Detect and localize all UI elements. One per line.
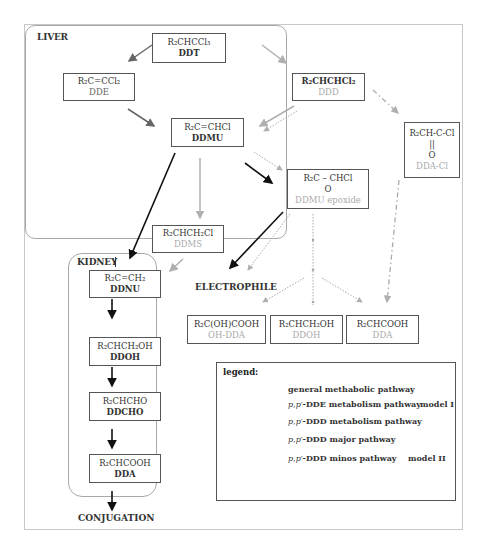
dda-formula: R₂CHCOOH xyxy=(347,319,418,330)
ddmu-epoxide-oxygen: O xyxy=(288,184,368,195)
dda-kidney-name: DDA xyxy=(90,469,160,480)
dda-cl-bond: || xyxy=(405,139,459,150)
ddnu-name: DDNU xyxy=(90,284,160,295)
ddmu-epoxide-name: DDMU epoxide xyxy=(288,195,368,206)
ddoh-kidney-formula: R₂CHCH₂OH xyxy=(90,341,160,352)
ddms-name: DDMS xyxy=(153,239,223,250)
ddd-name: DDD xyxy=(293,87,364,98)
compound-ddd: R₂CHCHCl₂ DDD xyxy=(292,73,365,101)
dda-cl-name: DDA-Cl xyxy=(405,161,459,172)
legend-title: legend: xyxy=(223,367,258,377)
ddms-formula: R₂CHCH₂Cl xyxy=(153,228,223,239)
compound-dda-kidney: R₂CHCOOH DDA xyxy=(89,454,161,483)
ddoh-kidney-name: DDOH xyxy=(90,352,160,363)
compound-ddms: R₂CHCH₂Cl DDMS xyxy=(152,225,224,253)
ddnu-formula: R₂C=CH₂ xyxy=(90,273,160,284)
legend-item-ddd: p,p′-DDD metabolism pathway xyxy=(288,416,422,426)
compound-dda: R₂CHCOOH DDA xyxy=(346,315,419,344)
model-1-label: model I xyxy=(420,399,454,409)
dda-name: DDA xyxy=(347,330,418,341)
oh-dda-name: OH-DDA xyxy=(188,330,265,341)
model-2-label: model II xyxy=(408,453,446,463)
ddd-formula: R₂CHCHCl₂ xyxy=(293,76,364,87)
ddt-name: DDT xyxy=(153,48,225,59)
compound-ddmu: R₂C=CHCl DDMU xyxy=(171,118,244,147)
compound-oh-dda: R₂C(OH)COOH OH-DDA xyxy=(187,315,266,344)
ddoh-name: DDOH xyxy=(271,330,342,341)
compound-ddt: R₂CHCCl₃ DDT xyxy=(152,33,226,63)
legend-item-dde: p,p′-DDE metabolism pathway xyxy=(288,399,421,409)
legend-item-general: general methabolic pathway xyxy=(288,384,415,394)
compound-ddmu-epoxide: R₂C – CHCl O DDMU epoxide xyxy=(287,169,369,209)
dda-cl-formula: R₂CH-C-Cl xyxy=(405,128,459,139)
legend-item-ddd-major: p,p′-DDD major pathway xyxy=(288,434,395,444)
legend-item-ddd-minor: p,p′-DDD minos pathway xyxy=(288,453,396,463)
oh-dda-formula: R₂C(OH)COOH xyxy=(188,319,265,330)
compound-ddoh: R₂CHCH₂OH DDOH xyxy=(270,315,343,344)
compound-ddoh-kidney: R₂CHCH₂OH DDOH xyxy=(89,337,161,366)
conjugation-label: CONJUGATION xyxy=(78,513,155,523)
ddoh-formula: R₂CHCH₂OH xyxy=(271,319,342,330)
ddcho-formula: R₂CHCHO xyxy=(90,396,160,407)
dde-formula: R₂C=CCl₂ xyxy=(64,76,134,87)
legend: legend: general methabolic pathway p,p′-… xyxy=(216,362,456,501)
ddmu-epoxide-formula: R₂C – CHCl xyxy=(288,173,368,184)
dda-cl-oxygen: O xyxy=(405,150,459,161)
compound-ddnu: R₂C=CH₂ DDNU xyxy=(89,270,161,298)
compound-dde: R₂C=CCl₂ DDE xyxy=(63,73,135,101)
compound-ddcho: R₂CHCHO DDCHO xyxy=(89,392,161,421)
electrophile-label: ELECTROPHILE xyxy=(195,282,277,292)
ddmu-formula: R₂C=CHCl xyxy=(172,122,243,133)
dda-kidney-formula: R₂CHCOOH xyxy=(90,458,160,469)
dde-name: DDE xyxy=(64,87,134,98)
ddt-formula: R₂CHCCl₃ xyxy=(153,37,225,48)
compound-dda-cl: R₂CH-C-Cl || O DDA-Cl xyxy=(404,122,460,178)
ddcho-name: DDCHO xyxy=(90,407,160,418)
ddmu-name: DDMU xyxy=(172,133,243,144)
